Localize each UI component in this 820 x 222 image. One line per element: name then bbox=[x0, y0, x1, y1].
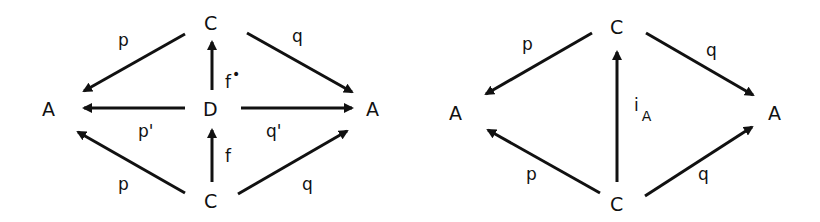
left-label-q-prime: q' bbox=[266, 121, 281, 141]
left-label-p-bottom: p bbox=[118, 174, 129, 194]
right-label-q-bottom: q bbox=[698, 164, 709, 184]
right-label-q-top: q bbox=[706, 40, 717, 60]
left-node-left-a: A bbox=[42, 98, 55, 120]
right-label-p-top: p bbox=[522, 34, 533, 54]
left-label-q-top: q bbox=[292, 26, 303, 46]
right-label-p-bottom: p bbox=[526, 164, 537, 184]
left-label-f-star-base: f bbox=[225, 72, 232, 92]
left-arrow-bottom-c-to-right-a bbox=[238, 131, 347, 194]
right-node-top-c: C bbox=[610, 16, 623, 38]
left-label-q-bottom: q bbox=[302, 174, 313, 194]
left-node-bottom-c: C bbox=[204, 190, 217, 212]
right-node-bottom-c: C bbox=[610, 193, 623, 215]
left-node-d: D bbox=[203, 98, 218, 120]
left-label-p-top: p bbox=[118, 30, 129, 50]
right-label-i: i bbox=[634, 95, 639, 115]
left-label-f-star: f• bbox=[225, 66, 240, 92]
left-arrow-bottom-c-to-left-a bbox=[78, 132, 185, 193]
right-node-right-a: A bbox=[768, 102, 781, 124]
left-label-p-prime: p' bbox=[138, 121, 153, 141]
right-label-i-subscript: A bbox=[642, 108, 652, 124]
left-arrow-top-c-to-left-a bbox=[84, 34, 185, 91]
right-arrow-top-c-to-right-a bbox=[646, 33, 753, 95]
left-label-f-star-sup: • bbox=[232, 66, 240, 82]
left-node-top-c: C bbox=[204, 12, 217, 34]
left-diagram: C D C A A p q p' q' p q f• f bbox=[42, 12, 379, 212]
left-node-right-a: A bbox=[366, 98, 379, 120]
right-label-i-a: iA bbox=[634, 95, 652, 124]
commutative-diagrams: C D C A A p q p' q' p q f• f C C A A bbox=[0, 0, 820, 222]
right-arrow-bottom-c-to-left-a bbox=[488, 130, 600, 193]
right-arrow-bottom-c-to-right-a bbox=[645, 127, 752, 196]
right-node-left-a: A bbox=[449, 102, 462, 124]
right-arrow-top-c-to-left-a bbox=[486, 33, 592, 94]
left-label-f: f bbox=[225, 146, 232, 166]
right-diagram: C C A A p q p q iA bbox=[449, 16, 781, 215]
